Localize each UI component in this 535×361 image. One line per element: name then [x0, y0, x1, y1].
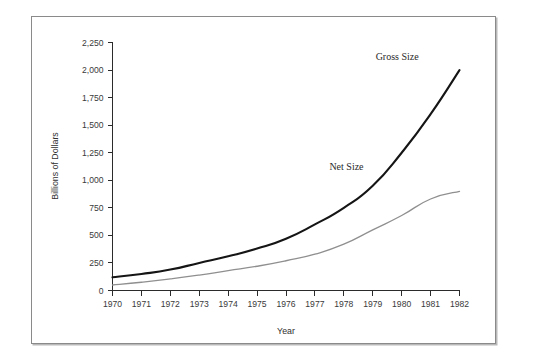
- x-tick-label: 1979: [363, 299, 382, 309]
- x-tick-label: 1975: [248, 299, 267, 309]
- chart-canvas: 02505007501,0001,2501,5001,7502,0002,250…: [32, 17, 495, 343]
- y-tick-label: 1,250: [82, 148, 104, 158]
- x-tick-label: 1981: [421, 299, 440, 309]
- x-tick-label: 1971: [132, 299, 151, 309]
- x-tick-label: 1974: [219, 299, 238, 309]
- y-tick-label: 500: [89, 230, 104, 240]
- y-tick-label: 1,000: [82, 175, 104, 185]
- y-tick-label: 250: [89, 258, 104, 268]
- y-tick-label: 1,750: [82, 93, 104, 103]
- y-tick-label: 0: [99, 286, 104, 296]
- y-axis-title: Billions of Dollars: [50, 132, 60, 200]
- y-tick-label: 750: [89, 203, 104, 213]
- x-axis-title: Year: [277, 326, 295, 336]
- x-tick-group: [113, 291, 460, 296]
- y-tick-label: 1,500: [82, 120, 104, 130]
- series-line-gross-size: [113, 70, 460, 277]
- series-label-net-size: Net Size: [329, 161, 364, 172]
- x-tick-label: 1982: [450, 299, 469, 309]
- y-tick-label: 2,000: [82, 65, 104, 75]
- x-tick-label-group: 1970197119721973197419751976197719781979…: [103, 299, 469, 309]
- y-tick-group: [108, 43, 113, 291]
- x-tick-label: 1970: [103, 299, 122, 309]
- y-tick-label-group: 02505007501,0001,2501,5001,7502,0002,250: [82, 38, 104, 296]
- figure-frame: 02505007501,0001,2501,5001,7502,0002,250…: [31, 16, 496, 344]
- x-tick-label: 1980: [392, 299, 411, 309]
- x-tick-label: 1978: [334, 299, 353, 309]
- x-tick-label: 1972: [161, 299, 180, 309]
- x-tick-label: 1973: [190, 299, 209, 309]
- y-tick-label: 2,250: [82, 38, 104, 48]
- x-tick-label: 1977: [305, 299, 324, 309]
- series-label-gross-size: Gross Size: [376, 51, 420, 62]
- x-tick-label: 1976: [276, 299, 295, 309]
